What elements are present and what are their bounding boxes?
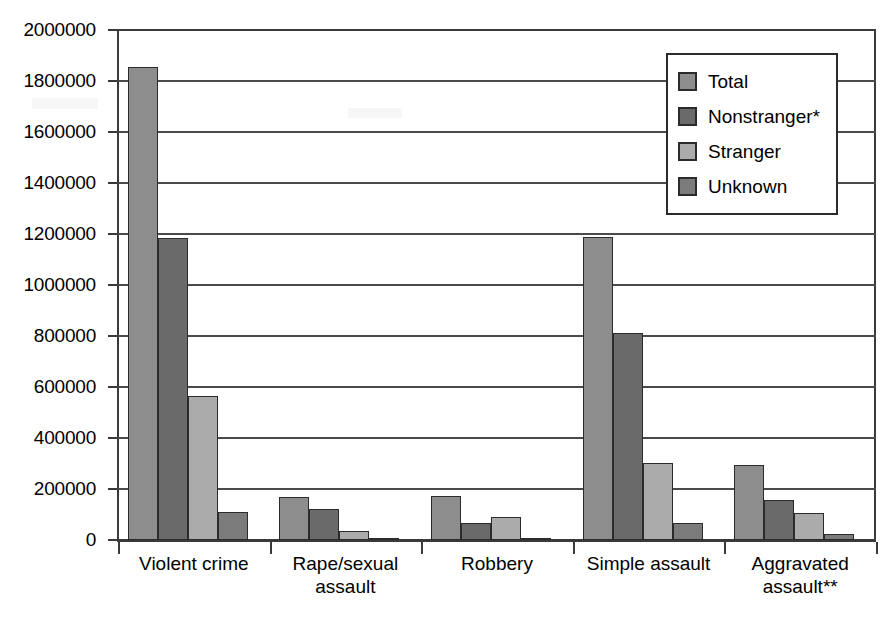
x-axis-group-label-line: Aggravated <box>724 552 876 575</box>
bar <box>643 463 673 540</box>
legend-item-label: Stranger <box>708 142 781 161</box>
bar <box>309 509 339 540</box>
x-axis-group-label: Simple assault <box>573 552 725 575</box>
x-axis-group-label-line: Violent crime <box>118 552 270 575</box>
x-axis-group-label: Violent crime <box>118 552 270 575</box>
legend-item-label: Unknown <box>708 177 787 196</box>
x-axis-group-label-line: Rape/sexual <box>270 552 422 575</box>
bar <box>128 67 158 540</box>
y-axis-tick-label: 1400000 <box>0 173 108 192</box>
bar <box>218 512 248 540</box>
chart-legend: TotalNonstranger*StrangerUnknown <box>666 53 838 215</box>
x-axis-group-label-line: assault <box>270 575 422 598</box>
x-axis-group-label: Robbery <box>421 552 573 575</box>
legend-item-nonstranger[interactable]: Nonstranger* <box>678 99 836 134</box>
y-axis-labels: 2000000180000016000001400000120000010000… <box>0 0 108 620</box>
x-axis-tick-mark <box>876 542 878 554</box>
x-axis-group-label-line: Robbery <box>421 552 573 575</box>
x-axis-group-label-line: assault** <box>724 575 876 598</box>
gridline <box>118 335 876 337</box>
bar <box>583 237 613 540</box>
y-axis-tick-label: 600000 <box>0 377 108 396</box>
x-axis-group-label-line: Simple assault <box>573 552 725 575</box>
y-axis-tick-label: 2000000 <box>0 20 108 39</box>
bar <box>491 517 521 540</box>
x-axis-line <box>118 540 876 542</box>
bar <box>764 500 794 540</box>
y-axis-tick-label: 400000 <box>0 428 108 447</box>
bar <box>673 523 703 540</box>
legend-item-label: Total <box>708 72 748 91</box>
y-axis-tick-label: 200000 <box>0 479 108 498</box>
bar-chart: 2000000180000016000001400000120000010000… <box>0 0 884 620</box>
bar <box>431 496 461 540</box>
gridline <box>118 437 876 439</box>
y-axis-tick-label: 1200000 <box>0 224 108 243</box>
gridline <box>118 386 876 388</box>
y-axis-tick-label: 0 <box>0 530 108 549</box>
legend-swatch-icon <box>678 177 697 196</box>
legend-item-stranger[interactable]: Stranger <box>678 134 836 169</box>
y-axis-tick-label: 1600000 <box>0 122 108 141</box>
y-axis-tick-label: 1000000 <box>0 275 108 294</box>
bar <box>158 238 188 540</box>
bar <box>794 513 824 540</box>
bar <box>279 497 309 540</box>
bar <box>461 523 491 540</box>
gridline <box>118 29 876 31</box>
y-axis-tick-label: 1800000 <box>0 71 108 90</box>
bar <box>188 396 218 540</box>
legend-item-label: Nonstranger* <box>708 107 820 126</box>
legend-item-unknown[interactable]: Unknown <box>678 169 836 204</box>
x-axis-group-label: Aggravatedassault** <box>724 552 876 598</box>
legend-swatch-icon <box>678 107 697 126</box>
legend-swatch-icon <box>678 142 697 161</box>
gridline <box>118 284 876 286</box>
legend-swatch-icon <box>678 72 697 91</box>
bar <box>613 333 643 540</box>
x-axis-group-label: Rape/sexualassault <box>270 552 422 598</box>
bar <box>734 465 764 540</box>
legend-item-total[interactable]: Total <box>678 64 836 99</box>
y-axis-tick-label: 800000 <box>0 326 108 345</box>
gridline <box>118 233 876 235</box>
bar <box>339 531 369 540</box>
